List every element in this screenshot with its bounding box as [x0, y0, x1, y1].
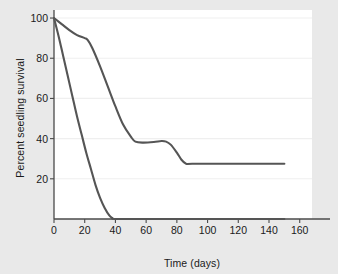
- x-tick-label-60: 60: [140, 224, 152, 236]
- x-tick-label-80: 80: [171, 224, 183, 236]
- x-tick-label-40: 40: [110, 224, 122, 236]
- x-tick-label-0: 0: [51, 224, 57, 236]
- y-tick-label-40: 40: [36, 133, 48, 145]
- x-axis-title: Time (days): [0, 257, 338, 269]
- plot-wrapper: Time (days) Percent seedling survival 02…: [0, 0, 338, 274]
- x-tick-label-20: 20: [79, 224, 91, 236]
- y-tick-label-80: 80: [36, 52, 48, 64]
- y-axis-title: Percent seedling survival: [14, 38, 26, 198]
- y-tick-label-20: 20: [36, 173, 48, 185]
- y-tick-label-60: 60: [36, 92, 48, 104]
- x-tick-label-100: 100: [199, 224, 217, 236]
- x-tick-label-140: 140: [260, 224, 278, 236]
- x-tick-label-120: 120: [230, 224, 248, 236]
- chart-figure: Time (days) Percent seedling survival 02…: [0, 0, 338, 274]
- x-tick-label-160: 160: [291, 224, 309, 236]
- y-tick-label-100: 100: [30, 12, 48, 24]
- plot-background: [54, 10, 312, 219]
